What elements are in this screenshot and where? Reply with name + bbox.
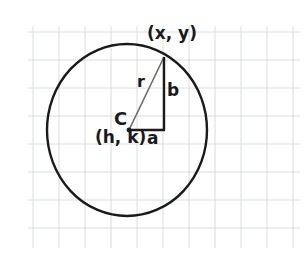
point-on-circle-label: (x, y)	[147, 25, 197, 42]
diagram-canvas: (x, y) r b C (h, k) a	[0, 0, 308, 262]
center-coordinates-label: (h, k)	[95, 129, 146, 146]
radius-segment	[129, 57, 164, 130]
vertical-leg-label: b	[167, 82, 179, 99]
radius-label: r	[137, 74, 145, 90]
center-letter-label: C	[114, 110, 127, 128]
horizontal-leg-label: a	[147, 130, 158, 147]
